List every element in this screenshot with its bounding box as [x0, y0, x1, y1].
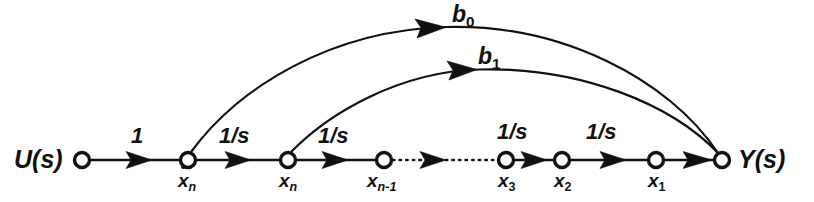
derivative-dot-icon [182, 165, 186, 169]
node-label-xn-subscript: n [290, 180, 298, 194]
node-xn[interactable] [281, 153, 296, 168]
arc-label-b1-subscript: 1 [492, 55, 500, 72]
node-x3[interactable] [499, 153, 514, 168]
node-label-xn-minus-1-subscript: n-1 [378, 180, 397, 194]
arc-label-b0: b0 [452, 3, 475, 26]
node-label-x1-base: x [648, 170, 659, 191]
input-terminal-label: U(s) [14, 147, 63, 172]
arc-label-b1-base: b [478, 43, 492, 69]
node-label-xn-dot: xn [178, 171, 196, 190]
gain-label-1-over-s-fourth: 1/s [586, 121, 617, 143]
node-label-xn-dot-base: x [178, 170, 189, 191]
node-output-y[interactable] [715, 153, 730, 168]
arrowhead-arc-b1 [447, 61, 477, 80]
node-label-x1: x1 [648, 171, 666, 190]
node-label-x2: x2 [554, 171, 572, 190]
signal-flow-graph-figure: U(s) Y(s) 1 1/s 1/s 1/s 1/s b0 b1 xn xn … [0, 0, 814, 202]
node-label-x3: x3 [498, 171, 516, 190]
node-xn-minus-1[interactable] [377, 153, 392, 168]
node-x2[interactable] [555, 153, 570, 168]
node-x1[interactable] [649, 153, 664, 168]
gain-label-1: 1 [131, 125, 143, 147]
node-label-xn-minus-1-base: x [367, 170, 378, 191]
arc-label-b1: b1 [478, 45, 501, 68]
node-label-xn: xn [279, 171, 297, 190]
gain-label-1-over-s-second: 1/s [318, 125, 349, 147]
arc-b0-path [191, 27, 718, 153]
node-label-x2-base: x [554, 170, 565, 191]
output-terminal-label: Y(s) [738, 147, 785, 172]
node-label-x2-subscript: 2 [565, 180, 572, 194]
node-label-xn-dot-subscript: n [189, 180, 197, 194]
node-label-xn-minus-1: xn-1 [367, 171, 396, 190]
node-label-x1-subscript: 1 [659, 180, 666, 194]
arrowhead-dotted-middle [420, 152, 446, 169]
arc-label-b0-base: b [452, 1, 466, 27]
node-label-x3-subscript: 3 [509, 180, 516, 194]
arc-label-b0-subscript: 0 [466, 13, 474, 30]
xn-dot-base-wrap: x [178, 171, 189, 190]
node-label-x3-base: x [498, 170, 509, 191]
signal-flow-graph-canvas [0, 0, 814, 202]
node-input-u[interactable] [75, 153, 90, 168]
feedforward-arcs [191, 19, 719, 154]
node-label-xn-base: x [279, 170, 290, 191]
gain-label-1-over-s-first: 1/s [219, 125, 250, 147]
gain-label-1-over-s-third: 1/s [497, 121, 528, 143]
